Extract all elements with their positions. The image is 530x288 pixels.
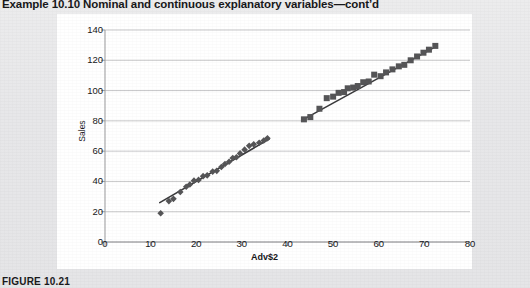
- x-axis-tick-label: 0: [90, 238, 120, 249]
- data-point-square: [360, 79, 366, 85]
- data-point-square: [366, 78, 372, 84]
- data-point-square: [432, 43, 438, 49]
- x-axis-tick-label: 20: [181, 238, 211, 249]
- data-point-square: [414, 54, 420, 60]
- data-point-square: [378, 73, 384, 79]
- data-point-square: [371, 72, 377, 78]
- y-axis-tick-label: 100: [77, 85, 103, 96]
- scatter-plot-svg: [57, 14, 472, 269]
- x-axis-tick-label: 60: [364, 238, 394, 249]
- data-point-square: [345, 85, 351, 91]
- data-point-square: [426, 47, 432, 53]
- data-point-square: [401, 62, 407, 68]
- data-point-square: [383, 69, 389, 75]
- data-point-square: [324, 95, 330, 101]
- data-point-square: [307, 114, 313, 120]
- y-axis-tick-label: 40: [77, 175, 103, 186]
- chart-canvas: 020406080100120140 01020304050607080 Sal…: [57, 14, 472, 269]
- y-axis-title: Sales: [77, 101, 87, 161]
- x-axis-tick-label: 30: [227, 238, 257, 249]
- data-point-square: [396, 63, 402, 69]
- data-point-square: [420, 50, 426, 56]
- data-point-square: [389, 66, 395, 72]
- page-header-title: Example 10.10 Nominal and continuous exp…: [2, 0, 522, 14]
- data-point-diamond: [157, 210, 164, 217]
- plot-area: [57, 14, 472, 269]
- data-point-square: [330, 94, 336, 100]
- y-axis-tick-label: 120: [77, 54, 103, 65]
- data-point-square: [301, 116, 307, 122]
- x-axis-title: Adv$2: [57, 252, 472, 262]
- y-axis-tick-label: 140: [77, 24, 103, 35]
- y-axis-tick-label: 20: [77, 206, 103, 217]
- x-axis-tick-label: 80: [455, 238, 485, 249]
- x-axis-tick-label: 50: [318, 238, 348, 249]
- figure-caption: FIGURE 10.21: [2, 276, 70, 287]
- x-axis-tick-label: 10: [136, 238, 166, 249]
- data-point-square: [408, 57, 414, 63]
- data-point-square: [336, 90, 342, 96]
- data-point-square: [355, 83, 361, 89]
- x-axis-tick-label: 40: [273, 238, 303, 249]
- x-axis-tick-label: 70: [409, 238, 439, 249]
- data-point-square: [316, 106, 322, 112]
